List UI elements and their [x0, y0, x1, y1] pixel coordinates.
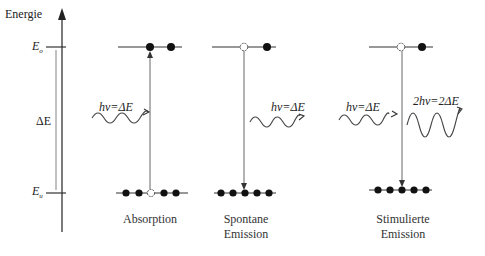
stimulated-incoming-photon-label: hν=ΔE [346, 100, 380, 115]
energy-gap-label: ΔE [36, 114, 51, 129]
absorption-caption: Absorption [110, 212, 190, 227]
stimulated-caption-line2: Emission [361, 227, 445, 242]
spontaneous-caption-line2: Emission [206, 227, 286, 242]
stimulated-caption-line1: Stimulierte [361, 212, 445, 227]
stimulated-outgoing-photon-label: 2hν=2ΔE [413, 94, 459, 109]
energy-level-diagram: Energie Eo Eu ΔE hν=ΔE hν=ΔE hν=ΔE 2hν=2… [0, 0, 485, 256]
upper-level-subscript: o [39, 47, 43, 55]
upper-level-label: Eo [32, 39, 43, 55]
spontaneous-emission-levels [212, 43, 304, 197]
spontaneous-emission-caption: Spontane Emission [206, 212, 286, 242]
axis-title: Energie [5, 7, 42, 22]
lower-level-label: Eu [32, 184, 43, 200]
absorption-caption-line1: Absorption [110, 212, 190, 227]
absorption-levels [92, 43, 188, 197]
spontaneous-photon-label: hν=ΔE [271, 100, 305, 115]
absorption-photon-label: hν=ΔE [99, 100, 133, 115]
stimulated-emission-caption: Stimulierte Emission [361, 212, 445, 242]
lower-level-subscript: u [39, 192, 43, 200]
spontaneous-caption-line1: Spontane [206, 212, 286, 227]
stimulated-emission-levels [339, 43, 462, 194]
